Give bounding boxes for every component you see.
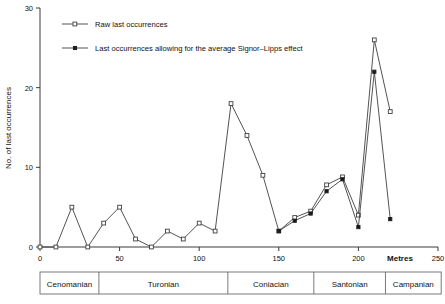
data-point-open [70,205,74,209]
stage-label-campanian: Campanian [393,280,434,289]
filled-square-marker [73,46,76,49]
data-point-open [388,110,392,114]
data-point-open [197,221,201,225]
y-tick-label: 30 [25,4,33,13]
chart-legend: Raw last occurrencesLast occurrences all… [62,20,303,53]
x-axis-title: Metres [387,254,413,263]
data-point-open [54,245,58,249]
y-axis-title: No. of last occurrences [4,87,13,169]
x-tick-label: 0 [38,254,42,263]
stage-label-cenomanian: Cenomanian [47,280,92,289]
y-tick-label: 10 [25,163,33,172]
x-tick-label: 200 [352,254,365,263]
stage-label-turonian: Turonian [148,280,179,289]
data-point-open [372,38,376,42]
data-point-open [261,173,265,177]
data-point-filled [357,225,360,228]
data-point-open [134,237,138,241]
stage-label-santonian: Santonian [332,280,368,289]
open-square-marker [73,22,77,26]
stage-label-coniacian: Coniacian [253,280,289,289]
data-point-filled [373,70,376,73]
stage-bar-outline [40,272,441,294]
data-point-open [38,245,42,249]
data-point-filled [341,178,344,181]
x-tick-label: 100 [193,254,206,263]
legend-label-0: Raw last occurrences [95,20,168,29]
data-point-filled [293,219,296,222]
data-point-open [86,245,90,249]
legend-label-1: Last occurrences allowing for the averag… [95,44,303,53]
y-tick-label: 0 [29,243,33,252]
series-line-0 [40,40,390,247]
stage-bar-layer: CenomanianTuronianConiacianSantonianCamp… [40,272,441,294]
data-point-filled [389,218,392,221]
x-tick-label: 250 [432,254,445,263]
data-point-open [165,229,169,233]
data-point-open [118,205,122,209]
data-series-layer [38,38,392,249]
data-point-filled [277,229,280,232]
data-point-filled [325,190,328,193]
chart-figure: 0102030 050100150200250 No. of last occu… [0,0,445,304]
data-point-open [181,237,185,241]
data-point-filled [309,212,312,215]
x-tick-label: 50 [115,254,123,263]
y-axis-ticks: 0102030 [25,4,40,252]
data-point-open [150,245,154,249]
data-point-open [245,134,249,138]
x-tick-label: 150 [273,254,286,263]
y-tick-label: 20 [25,84,33,93]
x-axis-ticks: 050100150200250 [38,247,444,263]
series-line-1 [279,72,390,231]
line-chart-svg: 0102030 050100150200250 No. of last occu… [0,0,445,304]
data-point-open [325,183,329,187]
data-point-open [102,221,106,225]
data-point-open [229,102,233,106]
data-point-open [213,229,217,233]
